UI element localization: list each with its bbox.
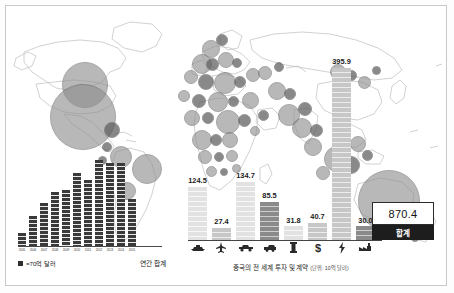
bar-energy[interactable] xyxy=(332,68,351,240)
tick-label: 2006 xyxy=(29,246,37,254)
ship-icon xyxy=(188,241,207,254)
tick-label: 2012 xyxy=(95,246,103,254)
sector-investment-chart: 124.5 27.4 134.7 85.5 31.8 40.7 xyxy=(186,62,444,276)
map-bubble xyxy=(216,34,228,46)
bar-value-label: 395.9 xyxy=(322,57,362,66)
annual-totals-footer: =70억 달러 연간 합계 xyxy=(18,257,166,269)
tick-label: 2005 xyxy=(18,246,26,254)
sector-column: 134.7 xyxy=(236,68,255,240)
sector-icon-row: $ xyxy=(188,241,382,254)
annual-totals-legend: =70억 달러 xyxy=(18,259,56,268)
tick-label: 2011 xyxy=(84,246,92,254)
aviation-icon xyxy=(212,241,231,254)
map-bubble xyxy=(50,84,116,150)
bar-other[interactable] xyxy=(308,223,327,240)
annual-totals-caption: 연간 합계 xyxy=(140,258,166,268)
tick-label: 2015 xyxy=(128,246,136,254)
bar-2013[interactable] xyxy=(106,163,114,246)
bar-automobile[interactable] xyxy=(236,182,255,240)
bar-2009[interactable] xyxy=(62,190,70,246)
bar-2014[interactable] xyxy=(117,163,125,246)
sector-investment-bars: 124.5 27.4 134.7 85.5 31.8 40.7 xyxy=(188,68,382,240)
sector-column: 85.5 xyxy=(260,68,279,240)
sector-column: 27.4 xyxy=(212,68,231,240)
bar-2006[interactable] xyxy=(29,216,37,246)
tick-label: 2009 xyxy=(62,246,70,254)
factory-icon xyxy=(356,241,375,254)
sector-investment-caption: 중국의 전 세계 투자 및 계약 (단위: 10억 달러) xyxy=(186,262,396,272)
caption-main: 중국의 전 세계 투자 및 계약 xyxy=(233,264,308,271)
bar-2011[interactable] xyxy=(84,180,92,246)
map-bubble xyxy=(104,122,120,138)
legend-label: =70억 달러 xyxy=(26,260,56,267)
tick-label: 2007 xyxy=(40,246,48,254)
bar-2008[interactable] xyxy=(51,192,59,246)
bar-2012[interactable] xyxy=(95,160,103,246)
sector-column: 124.5 xyxy=(188,68,207,240)
column-icon xyxy=(284,241,303,254)
total-box: 870.4 합계 xyxy=(372,202,434,240)
bar-2005[interactable] xyxy=(18,233,26,246)
annual-totals-chart: 2005 2006 2007 2008 2009 2010 2011 2012 … xyxy=(14,150,166,275)
sector-column: 40.7 xyxy=(308,68,327,240)
tick-label: 2014 xyxy=(117,246,125,254)
bar-aviation[interactable] xyxy=(212,228,231,240)
legend-swatch-icon xyxy=(18,261,23,266)
total-value: 870.4 xyxy=(372,202,434,225)
bar-transport[interactable] xyxy=(188,187,207,240)
bar-finance[interactable] xyxy=(284,226,303,240)
svg-text:$: $ xyxy=(314,242,320,254)
tick-label: 2013 xyxy=(106,246,114,254)
energy-bolt-icon xyxy=(332,241,351,254)
figure-root: 2005 2006 2007 2008 2009 2010 2011 2012 … xyxy=(0,0,454,293)
bar-2015[interactable] xyxy=(128,199,136,246)
tick-label: 2010 xyxy=(73,246,81,254)
annual-totals-tick-labels: 2005 2006 2007 2008 2009 2010 2011 2012 … xyxy=(18,246,162,254)
dollar-icon: $ xyxy=(308,241,327,254)
annual-totals-bars xyxy=(18,152,162,246)
real-estate-icon xyxy=(260,241,279,254)
automobile-icon xyxy=(236,241,255,254)
bar-2010[interactable] xyxy=(73,173,81,246)
tick-label: 2008 xyxy=(51,246,59,254)
caption-unit: (단위: 10억 달러) xyxy=(310,265,349,271)
sector-column: 395.9 xyxy=(332,68,351,240)
total-label: 합계 xyxy=(372,225,434,240)
bar-2007[interactable] xyxy=(40,203,48,246)
